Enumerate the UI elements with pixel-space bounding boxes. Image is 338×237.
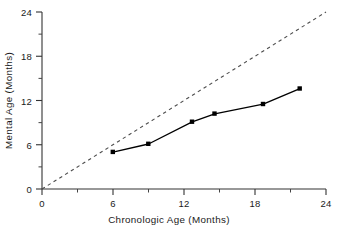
mental-age-series-markers — [111, 86, 302, 154]
x-axis-title: Chronologic Age (Months) — [0, 214, 338, 225]
y-major-ticks — [36, 12, 42, 189]
data-point-marker — [261, 102, 265, 106]
x-tick-label-6: 6 — [110, 198, 115, 209]
data-point-marker — [111, 150, 115, 154]
x-tick-label-12: 12 — [179, 198, 190, 209]
data-point-marker — [298, 86, 302, 90]
data-point-marker — [190, 120, 194, 124]
x-tick-label-18: 18 — [250, 198, 261, 209]
chart-figure: 0 6 12 18 24 0 6 12 18 24 Chronologic Ag… — [0, 0, 338, 237]
data-point-marker — [212, 111, 216, 115]
reference-diagonal-line — [42, 12, 326, 189]
x-tick-label-24: 24 — [321, 198, 332, 209]
y-axis-title: Mental Age (Months) — [4, 51, 15, 148]
mental-age-series-line — [113, 89, 300, 152]
y-axis-title-container: Mental Age (Months) — [1, 0, 17, 200]
plot-canvas — [0, 0, 338, 237]
x-major-ticks — [42, 189, 326, 195]
x-tick-label-0: 0 — [39, 198, 44, 209]
data-point-marker — [146, 142, 150, 146]
